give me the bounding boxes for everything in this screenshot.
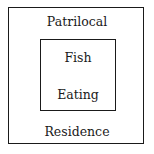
inner-bottom-label: Eating <box>40 88 116 102</box>
inner-top-label: Fish <box>40 51 116 65</box>
outer-top-label: Patrilocal <box>0 15 154 29</box>
outer-bottom-label: Residence <box>0 125 154 139</box>
